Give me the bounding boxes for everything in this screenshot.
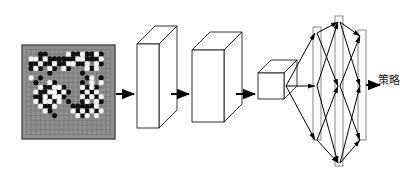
go-stone-black <box>47 94 52 99</box>
go-stone-white <box>57 85 62 90</box>
go-stone-black <box>33 61 38 66</box>
go-stone-white <box>52 61 57 66</box>
go-stone-black <box>43 52 48 57</box>
go-stone-black <box>85 108 90 113</box>
go-stone-black <box>66 56 71 61</box>
go-stone-white <box>71 108 76 113</box>
go-stone-white <box>52 94 57 99</box>
go-stone-white <box>99 56 104 61</box>
go-stone-white <box>80 94 85 99</box>
go-stone-white <box>52 104 57 109</box>
go-stone-black <box>89 66 94 71</box>
fc-layer-1 <box>313 27 321 140</box>
go-stone-white <box>85 89 90 94</box>
go-stone-black <box>80 113 85 118</box>
go-stone-white <box>85 66 90 71</box>
go-stone-white <box>85 113 90 118</box>
go-stone-white <box>61 66 66 71</box>
go-stone-black <box>85 52 90 57</box>
go-stone-white <box>94 89 99 94</box>
go-stone-black <box>94 56 99 61</box>
go-stone-white <box>99 94 104 99</box>
go-stone-black <box>47 61 52 66</box>
go-stone-white <box>33 56 38 61</box>
go-stone-white <box>75 113 80 118</box>
go-stone-black <box>52 113 57 118</box>
go-stone-black <box>38 52 43 57</box>
go-stone-black <box>80 99 85 104</box>
go-stone-black <box>43 104 48 109</box>
go-stone-black <box>29 66 34 71</box>
go-stone-white <box>94 61 99 66</box>
go-stone-white <box>80 52 85 57</box>
go-stone-black <box>99 75 104 80</box>
go-stone-white <box>85 61 90 66</box>
go-stone-white <box>66 61 71 66</box>
go-stone-black <box>38 99 43 104</box>
go-stone-black <box>75 108 80 113</box>
go-stone-black <box>38 56 43 61</box>
go-stone-white <box>89 80 94 85</box>
go-stone-black <box>61 85 66 90</box>
go-board <box>22 45 115 139</box>
go-stone-white <box>94 66 99 71</box>
go-stone-white <box>33 89 38 94</box>
go-stone-black <box>61 94 66 99</box>
go-stone-black <box>75 61 80 66</box>
go-stone-white <box>89 75 94 80</box>
go-stone-black <box>61 56 66 61</box>
go-stone-white <box>43 94 48 99</box>
go-stone-black <box>85 75 90 80</box>
go-stone-black <box>80 70 85 75</box>
go-stone-white <box>43 56 48 61</box>
go-stone-black <box>33 80 38 85</box>
output-policy-label: 策略 <box>378 74 400 87</box>
go-stone-white <box>89 108 94 113</box>
go-stone-white <box>61 89 66 94</box>
go-stone-black <box>80 61 85 66</box>
go-stone-white <box>57 99 62 104</box>
go-stone-black <box>66 99 71 104</box>
conv-block-2-front <box>192 50 224 122</box>
go-stone-black <box>57 56 62 61</box>
conn-cube-to-fc1-top <box>286 33 315 86</box>
go-stone-white <box>85 99 90 104</box>
go-stone-black <box>43 61 48 66</box>
go-stone-white <box>89 85 94 90</box>
go-stone-white <box>99 108 104 113</box>
go-stone-black <box>66 89 71 94</box>
go-stone-white <box>38 104 43 109</box>
go-stone-black <box>71 52 76 57</box>
go-stone-white <box>38 85 43 90</box>
go-stone-black <box>99 99 104 104</box>
go-stone-black <box>47 70 52 75</box>
go-stone-black <box>94 85 99 90</box>
go-stone-white <box>47 80 52 85</box>
go-stone-black <box>89 104 94 109</box>
go-stone-black <box>66 66 71 71</box>
go-stone-black <box>47 85 52 90</box>
go-stone-white <box>94 52 99 57</box>
fc-connections <box>286 22 360 163</box>
go-stone-white <box>43 99 48 104</box>
go-stone-white <box>33 99 38 104</box>
go-stone-black <box>43 89 48 94</box>
go-stone-black <box>47 104 52 109</box>
go-stone-white <box>52 85 57 90</box>
go-stone-black <box>33 94 38 99</box>
go-stone-black <box>94 94 99 99</box>
go-stone-black <box>99 52 104 57</box>
go-stone-white <box>52 89 57 94</box>
go-stone-black <box>75 52 80 57</box>
go-stone-black <box>52 66 57 71</box>
conv-block-3 <box>258 60 297 99</box>
go-stone-white <box>66 52 71 57</box>
go-stone-black <box>89 89 94 94</box>
diagram-canvas <box>0 0 419 169</box>
go-stone-white <box>43 108 48 113</box>
go-stone-black <box>57 61 62 66</box>
go-stone-white <box>89 94 94 99</box>
go-stone-white <box>80 108 85 113</box>
go-stone-white <box>94 113 99 118</box>
go-stone-white <box>80 85 85 90</box>
